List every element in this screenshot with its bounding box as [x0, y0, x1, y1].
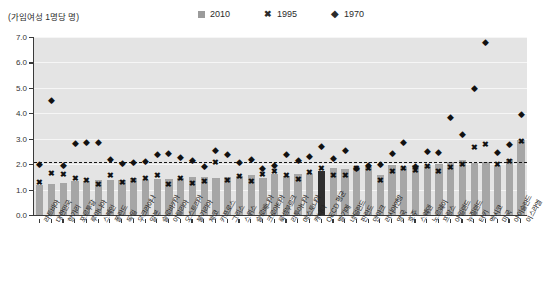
x-axis-tick-mark [86, 219, 87, 223]
y-axis-unit-label: (가임여성 1명당 명) [8, 10, 79, 22]
x-axis-tick-mark [450, 219, 451, 223]
legend-item-1970: ◆ 1970 [331, 9, 364, 19]
gridline [34, 113, 527, 114]
marker-1995: ✖ [482, 141, 489, 149]
x-axis-tick-mark [379, 219, 380, 223]
x-axis-tick-mark [332, 219, 333, 223]
marker-1970: ◆ [424, 147, 431, 156]
x-axis-labels: 라트비아대한민국헝가리포르투갈루마니아스페인폴란드독일우크라이나일본슬로바키아이… [33, 219, 526, 299]
bar-2010 [482, 162, 489, 215]
marker-1995: ✖ [471, 144, 478, 152]
gridline [34, 139, 527, 140]
x-axis-tick-mark [121, 219, 122, 223]
legend-swatch-square-icon [198, 11, 205, 18]
marker-1970: ◆ [342, 145, 349, 154]
x-axis-tick-mark [403, 219, 404, 223]
x-axis-tick-mark [203, 219, 204, 223]
x-axis-tick-mark [344, 219, 345, 223]
marker-1970: ◆ [201, 162, 208, 171]
legend-label-1970: 1970 [344, 9, 364, 19]
bar-2010 [412, 165, 419, 215]
marker-1970: ◆ [482, 37, 489, 46]
y-axis-tick-label: 4.0 [16, 109, 27, 118]
y-axis-tick-label: 1.0 [16, 185, 27, 194]
marker-1970: ◆ [389, 149, 396, 158]
x-axis-tick-mark [285, 219, 286, 223]
y-axis-tick-label: 5.0 [16, 83, 27, 92]
y-axis-tick-label: 2.0 [16, 160, 27, 169]
x-axis-tick-mark [180, 219, 181, 223]
x-axis-tick-mark [109, 219, 110, 223]
x-axis-tick-mark [62, 219, 63, 223]
marker-1970: ◆ [48, 95, 55, 104]
x-axis-tick-mark [438, 219, 439, 223]
x-axis-tick-mark [191, 219, 192, 223]
marker-1970: ◆ [435, 148, 442, 157]
marker-1970: ◆ [189, 155, 196, 164]
marker-1970: ◆ [177, 152, 184, 161]
marker-1995: ✖ [48, 170, 55, 178]
y-axis: 0.01.02.03.04.05.06.07.0 [0, 37, 33, 215]
x-axis-tick-mark [485, 219, 486, 223]
marker-1970: ◆ [259, 164, 266, 173]
x-axis-tick-mark [520, 219, 521, 223]
y-axis-tick-label: 7.0 [16, 33, 27, 42]
x-axis-tick-mark [356, 219, 357, 223]
x-axis-tick-mark [51, 219, 52, 223]
x-axis-tick-mark [227, 219, 228, 223]
x-axis-tick-mark [497, 219, 498, 223]
x-axis-tick-mark [74, 219, 75, 223]
x-axis-tick-mark [215, 219, 216, 223]
plot-area: ◆◆◆◆◆◆◆◆◆◆◆◆◆◆◆◆◆◆◆◆◆◆◆◆◆◆◆◆◆◆◆◆◆◆◆◆◆◆◆◆… [33, 37, 527, 216]
marker-1970: ◆ [494, 147, 501, 156]
bar-2010 [400, 167, 407, 215]
gridline [34, 88, 527, 89]
x-axis-tick-mark [262, 219, 263, 223]
x-axis-tick-mark [133, 219, 134, 223]
legend-swatch-diamond-icon: ◆ [331, 9, 339, 19]
x-axis-tick-mark [426, 219, 427, 223]
replacement-level-reference-line [34, 162, 527, 163]
marker-1970: ◆ [154, 149, 161, 158]
gridline [34, 62, 527, 63]
x-axis-tick-mark [321, 219, 322, 223]
x-axis-tick-mark [297, 219, 298, 223]
legend-label-2010: 2010 [210, 9, 230, 19]
x-axis-tick-mark [274, 219, 275, 223]
y-axis-tick-label: 6.0 [16, 58, 27, 67]
marker-1970: ◆ [283, 149, 290, 158]
marker-1995: ✖ [107, 172, 114, 180]
marker-1995: ✖ [60, 171, 67, 179]
legend-swatch-x-icon: ✖ [264, 10, 272, 19]
chart-legend: 2010 ✖ 1995 ◆ 1970 [198, 9, 364, 19]
legend-item-2010: 2010 [198, 9, 230, 19]
x-axis-tick-mark [145, 219, 146, 223]
marker-1970: ◆ [165, 149, 172, 158]
marker-1970: ◆ [212, 146, 219, 155]
marker-1970: ◆ [318, 142, 325, 151]
x-axis-tick-mark [156, 219, 157, 223]
x-axis-tick-mark [368, 219, 369, 223]
y-axis-tick-label: 0.0 [16, 211, 27, 220]
x-axis-tick-mark [309, 219, 310, 223]
y-axis-tick-label: 3.0 [16, 134, 27, 143]
x-axis-tick-mark [238, 219, 239, 223]
marker-1970: ◆ [459, 130, 466, 139]
x-axis-tick-mark [39, 219, 40, 223]
bar-2010 [36, 185, 43, 215]
marker-1970: ◆ [224, 150, 231, 159]
x-axis-tick-mark [461, 219, 462, 223]
marker-1970: ◆ [506, 139, 513, 148]
gridline [34, 37, 527, 38]
legend-item-1995: ✖ 1995 [264, 9, 297, 19]
legend-label-1995: 1995 [277, 9, 297, 19]
x-axis-tick-mark [98, 219, 99, 223]
x-axis-tick-mark [391, 219, 392, 223]
x-axis-tick-mark [250, 219, 251, 223]
x-axis-tick-mark [473, 219, 474, 223]
x-axis-tick-mark [168, 219, 169, 223]
x-axis-tick-mark [508, 219, 509, 223]
bar-2010 [506, 159, 513, 215]
marker-1970: ◆ [72, 139, 79, 148]
